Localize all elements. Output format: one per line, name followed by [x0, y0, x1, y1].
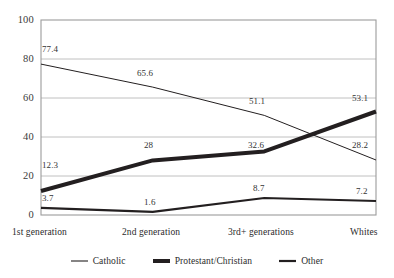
x-category-label-1st-generation: 1st generation	[12, 227, 67, 237]
chart-legend: Catholic Protestant/Christian Other	[0, 251, 394, 271]
legend-label-protestant: Protestant/Christian	[175, 256, 252, 266]
data-label-protestant-3: 53.1	[352, 93, 368, 103]
data-label-protestant-0: 12.3	[42, 160, 58, 170]
legend-item-catholic[interactable]: Catholic	[71, 256, 126, 266]
data-label-other-2: 8.7	[253, 183, 265, 193]
data-label-catholic-3: 28.2	[352, 140, 368, 150]
data-label-other-0: 3.7	[42, 193, 54, 203]
x-category-label-3rd-generations: 3rd+ generations	[228, 227, 294, 237]
gridlines	[41, 59, 376, 176]
legend-item-protestant[interactable]: Protestant/Christian	[153, 256, 252, 266]
legend-label-catholic: Catholic	[93, 256, 126, 266]
series-line-other	[41, 198, 376, 212]
series-line-protestant	[41, 112, 376, 192]
plot-frame	[41, 20, 376, 215]
data-label-catholic-1: 65.6	[137, 68, 153, 78]
legend-swatch-protestant-icon	[153, 257, 170, 265]
legend-swatch-catholic-icon	[71, 257, 88, 265]
legend-item-other[interactable]: Other	[279, 256, 323, 266]
data-label-protestant-1: 28	[144, 140, 153, 150]
series-line-catholic	[41, 64, 376, 160]
x-category-label-2nd-generation: 2nd generation	[122, 227, 180, 237]
data-label-catholic-2: 51.1	[249, 96, 265, 106]
data-label-other-3: 7.2	[356, 186, 368, 196]
x-category-label-whites: Whites	[350, 227, 378, 237]
data-label-protestant-2: 32.6	[248, 140, 264, 150]
data-label-catholic-0: 77.4	[42, 44, 58, 54]
legend-label-other: Other	[301, 256, 323, 266]
legend-swatch-other-icon	[279, 257, 296, 265]
data-label-other-1: 1.6	[144, 197, 156, 207]
line-chart: 100 80 60 40 20 0 77.4 65.6 51.1 28.2 12…	[0, 0, 394, 278]
